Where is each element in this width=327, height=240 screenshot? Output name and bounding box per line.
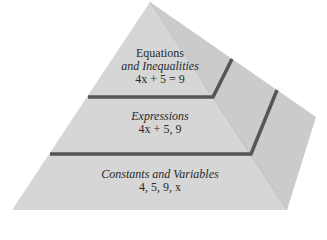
tier-mid-example: 4x + 5, 9 <box>100 123 220 136</box>
tier-top-example: 4x + 5 = 9 <box>110 73 210 86</box>
tier-equations-inequalities: Equations and Inequalities 4x + 5 = 9 <box>110 47 210 86</box>
tier-bot-example: 4, 5, 9, x <box>70 181 250 194</box>
tier-expressions: Expressions 4x + 5, 9 <box>100 110 220 136</box>
tier-constants-variables: Constants and Variables 4, 5, 9, x <box>70 168 250 194</box>
